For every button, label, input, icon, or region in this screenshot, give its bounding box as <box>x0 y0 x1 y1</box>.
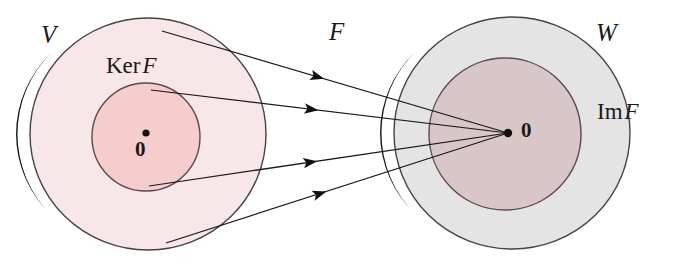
domain-set-label: V <box>41 22 56 47</box>
image-label-roman: Im <box>597 99 623 124</box>
kernel-label-map: F <box>140 53 156 78</box>
kernel-label: KerF <box>106 54 157 77</box>
image-label: ImF <box>597 100 639 123</box>
arrowhead-1 <box>309 70 325 84</box>
image-label-map: F <box>623 99 639 124</box>
arrowhead-4 <box>312 186 329 200</box>
zero-dot-domain <box>142 129 149 136</box>
arrowheads <box>303 70 328 201</box>
arrowhead-3 <box>303 156 318 168</box>
zero-vector-domain-label: 0 <box>135 139 146 160</box>
zero-vector-codomain-label: 0 <box>521 120 532 141</box>
kernel-label-roman: Ker <box>106 53 140 78</box>
arrowhead-2 <box>304 103 319 115</box>
map-label: F <box>329 19 344 44</box>
kernel-circle <box>92 83 200 191</box>
codomain-set-label: W <box>596 20 617 45</box>
diagram-canvas: V W F KerF ImF 0 0 <box>0 0 674 261</box>
